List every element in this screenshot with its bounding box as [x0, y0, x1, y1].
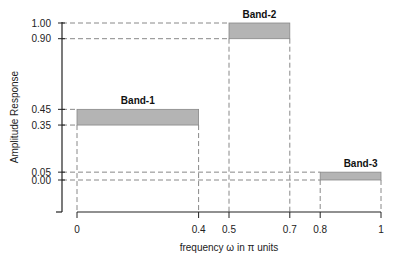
y-tick-label: 0.90	[32, 33, 52, 44]
y-tick-label: 1.00	[32, 18, 52, 29]
y-tick-label: 0.35	[32, 120, 52, 131]
x-tick-label: 0.4	[192, 224, 206, 235]
x-tick-label: 0.8	[313, 224, 327, 235]
x-tick-label: 0.7	[283, 224, 297, 235]
x-tick-label: 0.5	[222, 224, 236, 235]
x-tick-label: 1	[378, 224, 384, 235]
band-1-rect	[77, 109, 199, 125]
amplitude-response-chart: Band-1Band-2Band-31.000.900.450.350.050.…	[0, 0, 393, 265]
labels: Band-1Band-2Band-31.000.900.450.350.050.…	[9, 9, 384, 253]
band-2-label: Band-2	[242, 9, 276, 20]
band-3-label: Band-3	[344, 158, 378, 169]
band-1-label: Band-1	[121, 95, 155, 106]
x-axis-title: frequency ω in π units	[180, 242, 279, 253]
x-tick-label: 0	[74, 224, 80, 235]
y-axis-title: Amplitude Response	[9, 70, 20, 163]
band-3-rect	[320, 172, 381, 180]
y-tick-label: 0.45	[32, 104, 52, 115]
y-tick-label: 0.00	[32, 175, 52, 186]
band-2-rect	[229, 23, 290, 39]
